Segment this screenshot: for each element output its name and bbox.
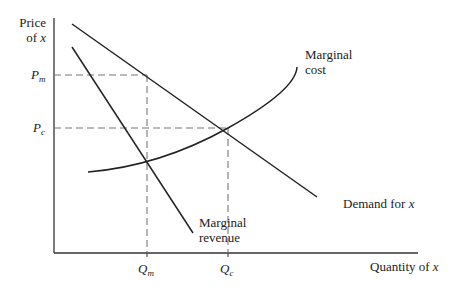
demand-label: Demand for x <box>343 196 414 211</box>
mr-label-line2: revenue <box>199 230 246 245</box>
monopoly-diagram: Price of x Pm Pc Qm Qc Quantity of x Mar… <box>0 0 463 288</box>
pm-sub: m <box>39 74 46 84</box>
marginal-cost-label: Marginal cost <box>305 47 352 77</box>
y-axis-label-line1: Price <box>18 15 46 30</box>
qc-sub: c <box>229 268 233 278</box>
y-axis-label-var: x <box>40 30 46 45</box>
demand-curve <box>72 24 317 197</box>
x-axis-label-var: x <box>433 259 439 274</box>
y-axis-label-prefix: of <box>26 30 40 45</box>
qc-main: Q <box>220 261 229 276</box>
marginal-revenue-label: Marginal revenue <box>199 215 246 245</box>
demand-label-var: x <box>409 196 415 211</box>
demand-label-prefix: Demand for <box>343 196 409 211</box>
x-axis-label: Quantity of x <box>370 259 439 274</box>
mr-label-line1: Marginal <box>199 215 246 230</box>
qm-sub: m <box>147 268 154 278</box>
pm-label: Pm <box>31 67 45 87</box>
mc-label-line1: Marginal <box>305 47 352 62</box>
pc-label: Pc <box>33 120 45 140</box>
y-axis-label: Price of x <box>18 15 46 45</box>
qc-label: Qc <box>220 261 233 281</box>
pm-main: P <box>31 67 39 82</box>
pc-sub: c <box>41 127 45 137</box>
qm-main: Q <box>138 261 147 276</box>
qm-label: Qm <box>138 261 154 281</box>
mc-label-line2: cost <box>305 62 352 77</box>
pc-main: P <box>33 120 41 135</box>
x-axis-label-prefix: Quantity of <box>370 259 433 274</box>
y-axis-label-line2: of x <box>18 30 46 45</box>
